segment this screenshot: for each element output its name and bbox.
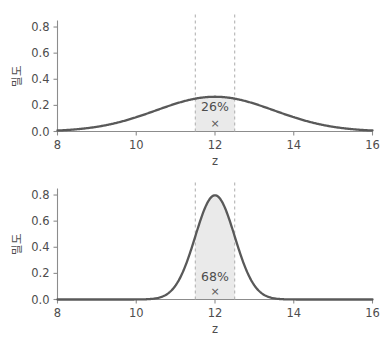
x-tick-label: 12 bbox=[208, 138, 223, 152]
y-tick-label: 0.2 bbox=[31, 266, 49, 280]
x-axis-title: z bbox=[212, 322, 218, 336]
density-plot-bottom: 0.00.20.40.60.881012141668%×z밀도 bbox=[0, 168, 384, 336]
x-tick-label: 12 bbox=[208, 306, 223, 320]
y-axis-title: 밀도 bbox=[10, 65, 24, 87]
x-tick-label: 16 bbox=[365, 138, 380, 152]
y-tick-label: 0.6 bbox=[31, 46, 49, 60]
y-tick-label: 0.8 bbox=[31, 188, 49, 202]
shaded-area-percentage-label: 68% bbox=[201, 269, 229, 284]
shaded-area-percentage-label: 26% bbox=[201, 99, 229, 114]
y-tick-label: 0.0 bbox=[31, 125, 49, 139]
x-tick-label: 14 bbox=[286, 138, 301, 152]
observation-x-marker: × bbox=[210, 285, 219, 298]
x-tick-label: 16 bbox=[365, 306, 380, 320]
x-axis-title: z bbox=[212, 154, 218, 168]
x-tick-label: 14 bbox=[286, 306, 301, 320]
y-tick-label: 0.6 bbox=[31, 214, 49, 228]
figure-container: 0.00.20.40.60.881012141626%×z밀도 0.00.20.… bbox=[0, 0, 384, 337]
chart-panel-bottom: 0.00.20.40.60.881012141668%×z밀도 bbox=[0, 168, 384, 336]
y-tick-label: 0.4 bbox=[31, 240, 49, 254]
x-tick-label: 10 bbox=[129, 306, 144, 320]
y-axis-title: 밀도 bbox=[10, 233, 24, 255]
chart-panel-top: 0.00.20.40.60.881012141626%×z밀도 bbox=[0, 0, 384, 168]
observation-x-marker: × bbox=[210, 117, 219, 130]
density-plot-top: 0.00.20.40.60.881012141626%×z밀도 bbox=[0, 0, 384, 168]
y-tick-label: 0.0 bbox=[31, 293, 49, 307]
x-tick-label: 10 bbox=[129, 138, 144, 152]
y-tick-label: 0.4 bbox=[31, 72, 49, 86]
y-tick-label: 0.8 bbox=[31, 20, 49, 34]
y-tick-label: 0.2 bbox=[31, 98, 49, 112]
x-tick-label: 8 bbox=[54, 306, 61, 320]
x-tick-label: 8 bbox=[54, 138, 61, 152]
